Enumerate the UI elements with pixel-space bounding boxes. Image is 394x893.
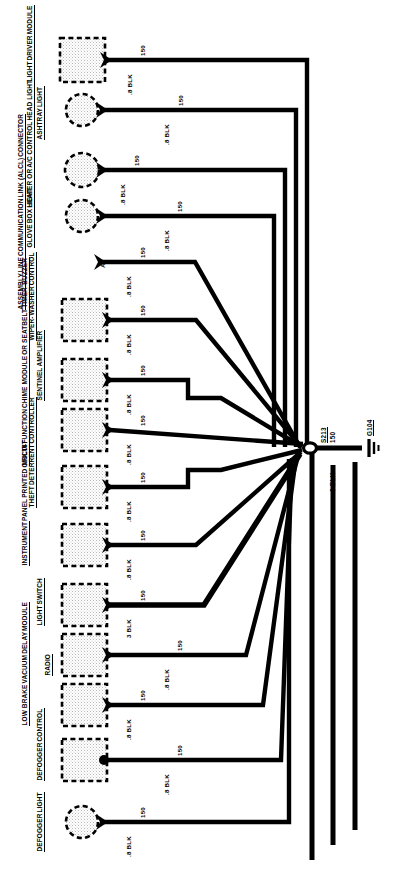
circuit-label-ashtray-light: 150: [177, 95, 184, 106]
circuit-label-heater-ac-head-light: 150: [133, 155, 140, 166]
circuit-label-alcl-connector: 150: [139, 247, 146, 258]
label-line: RADIO: [44, 654, 53, 676]
symbol-multi-function-chime: [62, 409, 107, 451]
gauge-label-multi-function-chime: .8 BLK: [125, 444, 132, 465]
label-defogger-control: DEFOGGER CONTROL: [36, 708, 45, 781]
label-defogger-light: DEFOGGER LIGHT: [36, 792, 45, 852]
label-line: TIMER-BUZZER: [21, 257, 30, 308]
label-line: OR SEATBELT: [21, 308, 30, 355]
symbol-defogger-light: [66, 806, 98, 838]
gauge-label-ashtray-light: .8 BLK: [163, 124, 170, 145]
gauge-label-low-brake-vacuum-delay-module: .8 BLK: [125, 719, 132, 740]
label-low-brake-vacuum-delay-module: LOW BRAKE VACUUM DELAY MODULE: [21, 602, 30, 726]
gauge-label-radio: .8 BLK: [163, 669, 170, 690]
label-line: DRIVER: [26, 35, 35, 61]
gauge-label-theft-deterrent-controller: .8 BLK: [125, 501, 132, 522]
splice-id-label: S213: [320, 427, 328, 443]
circuit-label-radio: 150: [176, 640, 183, 651]
label-line: LIGHT: [36, 605, 45, 626]
label-line: A/C CONTROL: [26, 121, 35, 168]
label-line: LIGHT: [26, 187, 35, 208]
label-line: LIGHT: [36, 86, 45, 107]
gauge-label-instrument-panel-printed-circuit: .8 BLK: [125, 559, 132, 580]
label-line: LOW BRAKE: [21, 684, 30, 726]
label-radio: RADIO: [44, 654, 53, 676]
circuit-label-instrument-panel-printed-circuit: 150: [139, 530, 146, 541]
label-line: VACUUM: [21, 654, 30, 684]
gauge-label-glove-box-light: .8 BLK: [163, 230, 170, 251]
label-instrument-panel-printed-circuit: INSTRUMENT PANEL PRINTED CIRCUIT: [21, 440, 30, 566]
label-line: INSTRUMENT: [21, 521, 30, 566]
label-line: PRINTED: [21, 468, 29, 498]
label-line: CIRCUIT: [21, 440, 29, 468]
label-line: LIGHT: [36, 792, 45, 813]
label-line: GLOVE: [26, 224, 35, 248]
pin-label-alcl-a: A: [99, 264, 106, 268]
symbol-low-brake-vacuum-delay-module: [62, 684, 107, 726]
trunk-wire-label: 3 BLK: [329, 473, 336, 492]
symbol-ashtray-light: [66, 94, 98, 126]
gauge-label-alcl-connector: .8 BLK: [125, 276, 132, 297]
circuit-label-light-driver-module: 150: [139, 45, 146, 56]
symbol-wiper-washer-control: [62, 299, 107, 341]
chassis-ground-icon: [369, 439, 379, 457]
label-ashtray-light: ASHTRAY LIGHT: [36, 86, 45, 140]
label-line: MODULE: [21, 602, 30, 632]
circuit-label-multi-function-chime: 150: [139, 415, 146, 426]
label-sentinel-amplifier: SENTINEL AMPLIFIER: [36, 330, 45, 401]
wire-light-driver-module: [108, 60, 307, 447]
circuit-label-wiper-washer-control: 150: [139, 305, 146, 316]
label-light-driver-module: LIGHT DRIVER MODULE: [26, 5, 35, 82]
label-line: SWITCH: [36, 578, 45, 605]
label-line: DELAY: [21, 631, 30, 654]
label-line: PANEL: [21, 498, 29, 521]
wire-defogger-control: [104, 458, 292, 760]
label-line: SENTINEL: [36, 367, 45, 401]
symbol-glove-box-light: [66, 200, 98, 232]
symbol-theft-deterrent-controller: [62, 466, 107, 508]
label-line: LINK (ALCL): [17, 157, 26, 198]
label-line: CONTROLLER: [28, 397, 37, 444]
label-glove-box-light: GLOVE BOX LIGHT: [26, 187, 35, 248]
gauge-label-sentinel-amplifier: .8 BLK: [125, 394, 132, 415]
circuit-label-defogger-light: 150: [139, 807, 146, 818]
gauge-label-defogger-control: .8 BLK: [163, 774, 170, 795]
symbol-light-switch: [62, 584, 107, 626]
symbol-sentinel-amplifier: [62, 359, 107, 401]
gauge-label-light-driver-module: .8 BLK: [126, 74, 133, 95]
label-line: AMPLIFIER: [36, 330, 45, 367]
circuit-label-sentinel-amplifier: 150: [139, 365, 146, 376]
wire-low-brake-vacuum-delay-module: [110, 457, 296, 705]
gauge-label-light-switch: 3 BLK: [125, 619, 132, 638]
ground-id-label: G104: [366, 420, 374, 436]
wiring-diagram: LIGHT DRIVER MODULE ASHTRAY LIGHT HEATER…: [0, 0, 394, 893]
label-line: HEAD LIGHT: [26, 79, 35, 121]
gauge-label-wiper-washer-control: .8 BLK: [125, 334, 132, 355]
circuit-label-light-switch: 150: [139, 590, 146, 601]
circuit-label-low-brake-vacuum-delay-module: 150: [139, 690, 146, 701]
symbol-instrument-panel-printed-circuit: [62, 524, 107, 566]
label-line: CONNECTOR: [17, 114, 26, 158]
label-line: CONTROL: [36, 708, 45, 742]
gauge-label-defogger-light: .8 BLK: [125, 836, 132, 857]
label-line: BOX: [26, 208, 35, 223]
label-line: MODULE: [26, 5, 35, 35]
circuit-label-defogger-control: 150: [176, 745, 183, 756]
label-line: DEFOGGER: [36, 813, 45, 852]
symbol-light-driver-module: [60, 38, 105, 82]
label-light-switch: LIGHT SWITCH: [36, 578, 45, 626]
symbol-radio: [62, 634, 107, 676]
label-line: ASHTRAY: [36, 107, 45, 140]
label-line: COMMUNICATION: [17, 198, 26, 257]
splice-circuit-label: 150: [329, 432, 336, 443]
terminal-defogger-control: [99, 755, 109, 765]
gauge-label-heater-ac-head-light: .8 BLK: [119, 184, 126, 205]
circuit-label-glove-box-light: 150: [176, 201, 183, 212]
circuit-label-theft-deterrent-controller: 150: [139, 472, 146, 483]
splice-node-S213: [304, 443, 317, 453]
label-line: DEFOGGER: [36, 742, 45, 781]
wire-network: [0, 0, 394, 893]
symbol-heater-ac-head-light: [65, 153, 99, 187]
